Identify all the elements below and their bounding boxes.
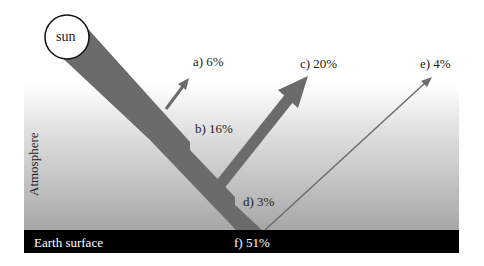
atmosphere-label: Atmosphere <box>27 132 40 196</box>
solar-radiation-diagram: sun Atmosphere Earth surface a) 6% b) 16… <box>0 0 484 266</box>
flux-label-c: c) 20% <box>300 57 337 70</box>
flux-label-d: d) 3% <box>243 195 274 208</box>
flux-label-a: a) 6% <box>193 55 224 68</box>
flux-label-b: b) 16% <box>195 122 233 135</box>
sun-label: sun <box>56 30 75 44</box>
earth-surface-label: Earth surface <box>34 236 103 249</box>
flux-label-f: f) 51% <box>234 236 270 249</box>
flux-label-e: e) 4% <box>420 57 451 70</box>
